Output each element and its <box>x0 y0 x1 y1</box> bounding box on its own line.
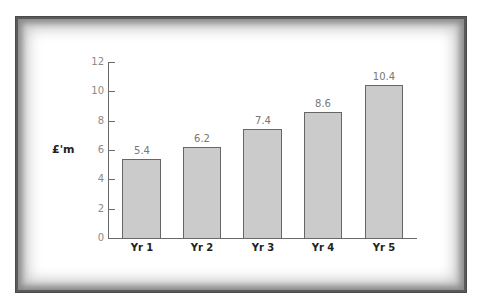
y-tick <box>108 238 115 239</box>
bar-yr-2 <box>183 147 221 238</box>
y-tick-label: 8 <box>80 115 104 127</box>
bar-yr-5 <box>365 85 403 238</box>
value-label: 10.4 <box>359 71 409 83</box>
x-axis <box>108 238 417 239</box>
y-tick <box>108 150 115 151</box>
bar-yr-3 <box>243 129 282 238</box>
value-label: 8.6 <box>298 98 348 110</box>
x-tick-label: Yr 3 <box>238 242 288 253</box>
bar-yr-4 <box>304 112 342 238</box>
x-tick-label: Yr 1 <box>117 242 167 253</box>
y-tick-label: 12 <box>80 56 104 68</box>
y-tick-label: 4 <box>80 173 104 185</box>
y-tick-label: 0 <box>80 232 104 244</box>
y-tick <box>108 179 115 180</box>
y-tick-label: 2 <box>80 203 104 215</box>
x-tick-label: Yr 2 <box>177 242 227 253</box>
y-tick <box>108 62 115 63</box>
y-tick-label: 10 <box>80 85 104 97</box>
y-tick <box>108 121 115 122</box>
y-tick <box>108 209 115 210</box>
value-label: 7.4 <box>238 115 288 127</box>
value-label: 5.4 <box>117 145 167 157</box>
x-tick-label: Yr 4 <box>298 242 348 253</box>
x-tick-label: Yr 5 <box>359 242 409 253</box>
y-tick-label: 6 <box>80 144 104 156</box>
value-label: 6.2 <box>177 133 227 145</box>
y-tick <box>108 91 115 92</box>
bar-yr-1 <box>122 159 161 238</box>
y-axis-label: £'m <box>52 143 74 156</box>
bar-chart: £'m 0 2 4 6 8 10 12 5.4 6.2 7.4 8.6 10.4… <box>0 0 478 307</box>
